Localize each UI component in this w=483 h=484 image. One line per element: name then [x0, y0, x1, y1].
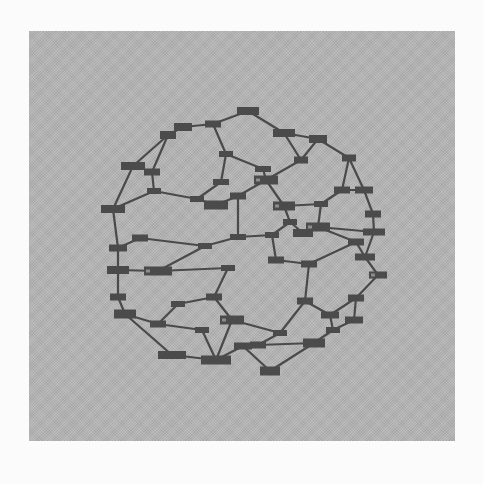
atom-node [158, 351, 186, 359]
atom-node [174, 123, 192, 131]
atom-node [221, 265, 235, 271]
atom-node [206, 294, 222, 301]
atom-node [234, 343, 252, 350]
atom-node [297, 298, 313, 305]
atom-highlight [308, 226, 312, 229]
atom-node [114, 310, 136, 319]
atom-node [219, 151, 233, 157]
bond [305, 264, 309, 301]
atom-node [348, 295, 364, 302]
atom-node [273, 129, 295, 137]
atom-node [195, 327, 209, 333]
bond [364, 190, 373, 214]
atom-node [204, 201, 228, 210]
atom-node [301, 261, 317, 268]
bond [214, 268, 228, 297]
atom-node [171, 301, 185, 307]
atom-highlight [275, 205, 279, 208]
atom-node [255, 166, 271, 172]
atom-node [326, 327, 340, 333]
bond [140, 238, 205, 246]
atom-highlight [256, 179, 260, 182]
atom-node [190, 196, 204, 202]
atom-node [321, 312, 339, 319]
atom-node [132, 235, 148, 242]
atom-node [121, 162, 145, 170]
atom-node [260, 367, 280, 376]
atom-node [365, 211, 381, 218]
atom-node [205, 121, 221, 128]
atom-node [201, 356, 231, 365]
bond [113, 209, 118, 248]
atom-node [273, 330, 287, 336]
fullerene-diagram [0, 0, 483, 484]
atom-node [363, 229, 385, 236]
bond [152, 135, 168, 172]
atom-node [294, 157, 308, 164]
atom-node [198, 243, 212, 249]
atom-node [342, 155, 356, 162]
bond [365, 232, 374, 257]
atom-node [109, 245, 127, 252]
bond [342, 158, 349, 190]
atom-node [230, 234, 246, 240]
atom-node [147, 188, 161, 194]
atom-highlight [222, 319, 226, 322]
atom-node [348, 239, 364, 246]
atom-node [265, 232, 279, 238]
atom-layer [101, 107, 387, 376]
bond [133, 135, 168, 166]
atom-node [268, 257, 284, 264]
bond [221, 154, 226, 182]
atom-node [213, 179, 229, 185]
atom-node [314, 201, 328, 207]
atom-node [283, 219, 297, 225]
atom-node [107, 266, 129, 274]
bond [284, 133, 301, 160]
atom-node [110, 294, 126, 301]
atom-node [250, 342, 266, 349]
bond [349, 158, 364, 190]
atom-highlight [146, 270, 150, 273]
atom-highlight [371, 274, 375, 277]
bond [213, 124, 226, 154]
bond [272, 235, 276, 260]
atom-node [160, 131, 176, 139]
atom-node [355, 187, 373, 194]
atom-node [150, 321, 166, 328]
atom-node [230, 193, 246, 200]
atom-node [144, 169, 160, 176]
atom-node [101, 205, 125, 213]
atom-node [237, 107, 259, 115]
atom-node [303, 339, 325, 348]
atom-node [355, 254, 375, 261]
atom-node [334, 187, 350, 194]
atom-node [309, 135, 327, 143]
atom-node [345, 317, 363, 324]
bond [280, 301, 305, 333]
